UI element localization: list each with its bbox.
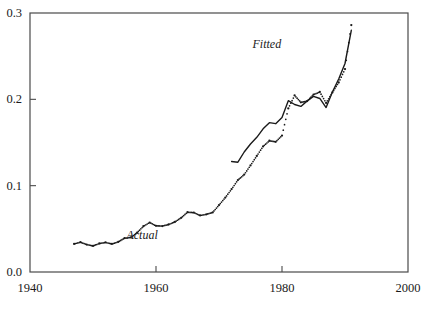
- data-point-interpolated: [232, 186, 234, 188]
- data-point-interpolated: [320, 93, 322, 95]
- data-point-interpolated: [213, 210, 215, 212]
- data-point-interpolated: [295, 96, 297, 98]
- axis-tick-marks: [30, 99, 282, 272]
- data-point-interpolated: [342, 74, 344, 76]
- x-tick-label: 2000: [396, 281, 421, 296]
- data-point: [281, 134, 283, 136]
- data-point: [243, 173, 245, 175]
- data-point-interpolated: [255, 157, 257, 159]
- data-point-interpolated: [282, 129, 284, 131]
- x-tick-label: 1940: [18, 281, 43, 296]
- data-point-interpolated: [324, 100, 326, 102]
- data-point-interpolated: [219, 203, 221, 205]
- data-point: [350, 24, 352, 26]
- data-point-interpolated: [258, 151, 260, 153]
- data-point: [224, 196, 226, 198]
- data-point-interpolated: [298, 99, 300, 101]
- data-point-interpolated: [222, 200, 224, 202]
- data-point: [287, 107, 289, 109]
- data-point-interpolated: [214, 209, 216, 211]
- data-point-interpolated: [233, 185, 235, 187]
- data-point-interpolated: [221, 201, 223, 203]
- data-point-interpolated: [216, 207, 218, 209]
- data-point-interpolated: [235, 183, 237, 185]
- y-tick-label: 0.1: [0, 178, 22, 193]
- data-point-interpolated: [246, 170, 248, 172]
- series-actual: [73, 24, 353, 247]
- data-point-interpolated: [261, 147, 263, 149]
- data-point-interpolated: [276, 140, 278, 142]
- data-point-interpolated: [321, 96, 323, 98]
- data-point-interpolated: [247, 168, 249, 170]
- data-point-interpolated: [286, 113, 288, 115]
- x-tick-label: 1980: [270, 281, 295, 296]
- data-point-interpolated: [289, 105, 291, 107]
- data-point: [249, 164, 251, 166]
- data-point-interpolated: [340, 76, 342, 78]
- data-point-interpolated: [279, 137, 281, 139]
- data-point-interpolated: [257, 153, 259, 155]
- y-tick-label: 0.3: [0, 6, 22, 21]
- y-tick-label: 0.2: [0, 92, 22, 107]
- data-point: [319, 91, 321, 93]
- data-point: [256, 155, 258, 157]
- data-point-interpolated: [252, 161, 254, 163]
- data-point-interpolated: [229, 190, 231, 192]
- data-point-interpolated: [227, 193, 229, 195]
- data-point-interpolated: [253, 159, 255, 161]
- series-fitted: [232, 30, 352, 162]
- data-point-interpolated: [228, 192, 230, 194]
- data-point-interpolated: [248, 166, 250, 168]
- data-point-interpolated: [284, 124, 286, 126]
- line-chart-plot: [0, 0, 427, 310]
- data-point: [230, 188, 232, 190]
- series-label-fitted: Fitted: [253, 36, 282, 51]
- data-point-interpolated: [260, 149, 262, 151]
- data-point-interpolated: [292, 97, 294, 99]
- data-point-interpolated: [343, 71, 345, 73]
- data-point-interpolated: [226, 195, 228, 197]
- data-point-interpolated: [236, 181, 238, 183]
- series-label-actual: Actual: [126, 228, 157, 243]
- chart-figure: 0.00.10.20.3 1940196019802000 ActualFitt…: [0, 0, 427, 310]
- data-series-layer: [73, 24, 353, 247]
- data-point-interpolated: [323, 98, 325, 100]
- data-point-interpolated: [251, 163, 253, 165]
- data-point: [344, 68, 346, 70]
- data-point-interpolated: [296, 97, 298, 99]
- data-point-interpolated: [291, 100, 293, 102]
- axis-frame: [30, 13, 408, 272]
- plot-border: [30, 13, 408, 272]
- x-tick-label: 1960: [144, 281, 169, 296]
- data-point-interpolated: [245, 172, 247, 174]
- y-tick-label: 0.0: [0, 265, 22, 280]
- data-point-interpolated: [277, 138, 279, 140]
- data-point-interpolated: [285, 118, 287, 120]
